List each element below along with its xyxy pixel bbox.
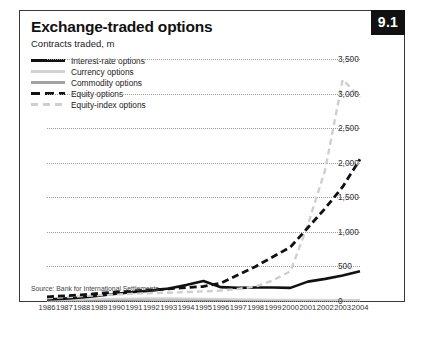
x-axis-tick-label: 2002: [317, 303, 334, 312]
x-axis-tick-label: 1988: [73, 303, 90, 312]
x-axis-tick-label: 1995: [195, 303, 212, 312]
y-axis-tick-label: 3,500: [338, 54, 359, 64]
y-axis-tick-label: 1,000: [338, 227, 359, 237]
figure-number-badge: 9.1: [371, 10, 405, 35]
x-axis-tick-label: 2004: [352, 303, 369, 312]
gridline: [47, 301, 360, 302]
figure-panel: 9.1 Exchange-traded options Contracts tr…: [19, 10, 405, 302]
x-axis-tick-label: 1990: [108, 303, 125, 312]
x-axis-tick-label: 1996: [212, 303, 229, 312]
x-axis-tick-label: 1993: [160, 303, 177, 312]
x-axis-tick-label: 2003: [334, 303, 351, 312]
y-axis-tick-label: 3,000: [338, 89, 359, 99]
y-axis-tick-label: 500: [338, 261, 352, 271]
y-axis-tick-label: 2,000: [338, 158, 359, 168]
series-line: [47, 159, 360, 297]
figure-subtitle: Contracts traded, m: [31, 38, 114, 49]
figure-title: Exchange-traded options: [31, 18, 212, 36]
x-axis-tick-label: 1991: [125, 303, 142, 312]
x-axis-tick-label: 1989: [91, 303, 108, 312]
x-axis-tick-label: 2000: [282, 303, 299, 312]
x-axis-labels: 1986198719881989199019911992199319941995…: [47, 303, 360, 317]
x-axis-tick-label: 2001: [299, 303, 316, 312]
source-note: Source: Bank for International Settlemen…: [31, 285, 159, 292]
plot-area: [47, 59, 360, 301]
x-axis-tick-label: 1999: [265, 303, 282, 312]
series-lines: [47, 59, 360, 301]
x-axis-tick-label: 1994: [178, 303, 195, 312]
y-axis-tick-label: 1,500: [338, 192, 359, 202]
y-axis-tick-label: 2,500: [338, 123, 359, 133]
x-axis-tick-label: 1986: [39, 303, 56, 312]
x-axis-tick-label: 1987: [56, 303, 73, 312]
x-axis-tick-label: 1997: [230, 303, 247, 312]
series-line: [47, 80, 360, 298]
x-axis-tick-label: 1992: [143, 303, 160, 312]
x-axis-tick-label: 1998: [247, 303, 264, 312]
